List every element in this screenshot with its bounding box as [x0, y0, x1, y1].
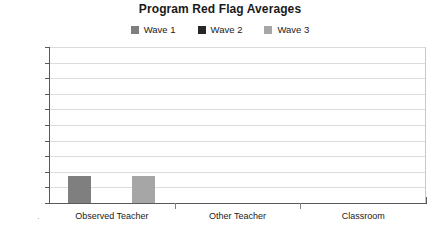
y-axis-tick-mark	[45, 156, 49, 157]
gridline	[49, 156, 426, 157]
plot-area	[49, 47, 426, 203]
legend-label-wave-2: Wave 2	[211, 24, 243, 35]
legend-item-wave-1[interactable]: Wave 1	[131, 24, 176, 35]
x-axis-category-label: Other Teacher	[209, 211, 266, 221]
plot-right-border	[425, 47, 426, 203]
x-axis-category-separator	[300, 203, 301, 209]
chart-title: Program Red Flag Averages	[0, 2, 440, 16]
y-axis-tick-mark	[45, 172, 49, 173]
x-axis-category-label: Classroom	[342, 211, 385, 221]
y-axis-tick-mark	[45, 141, 49, 142]
legend-swatch-wave-2-icon	[198, 26, 206, 34]
legend-swatch-wave-3-icon	[264, 26, 272, 34]
legend-item-wave-2[interactable]: Wave 2	[198, 24, 243, 35]
bar-wave-3[interactable]	[132, 176, 155, 203]
gridline	[49, 125, 426, 126]
x-axis-line	[49, 203, 427, 204]
y-axis-tick-mark	[45, 203, 49, 204]
y-axis-tick-mark	[45, 109, 49, 110]
legend-item-wave-3[interactable]: Wave 3	[264, 24, 309, 35]
gridline	[49, 94, 426, 95]
y-axis-tick-mark	[45, 187, 49, 188]
y-axis-line	[49, 47, 50, 204]
gridline	[49, 109, 426, 110]
gridline	[49, 141, 426, 142]
x-axis-category-separator	[175, 203, 176, 209]
gridline	[49, 78, 426, 79]
y-axis-tick-mark	[45, 47, 49, 48]
y-axis-tick-mark	[45, 125, 49, 126]
gridline	[49, 172, 426, 173]
gridline	[49, 187, 426, 188]
chart-legend: Wave 1 Wave 2 Wave 3	[0, 24, 440, 35]
bar-chart: Program Red Flag Averages Wave 1 Wave 2 …	[0, 0, 440, 236]
origin-marker: ·	[37, 214, 40, 223]
y-axis-tick-mark	[45, 94, 49, 95]
bar-wave-1[interactable]	[68, 176, 91, 203]
gridline	[49, 63, 426, 64]
y-axis-tick-mark	[45, 78, 49, 79]
legend-label-wave-1: Wave 1	[144, 24, 176, 35]
x-axis-right-cap	[426, 197, 427, 204]
y-axis-tick-mark	[45, 63, 49, 64]
legend-swatch-wave-1-icon	[131, 26, 139, 34]
x-axis-category-label: Observed Teacher	[75, 211, 148, 221]
legend-label-wave-3: Wave 3	[277, 24, 309, 35]
gridline	[49, 47, 426, 48]
